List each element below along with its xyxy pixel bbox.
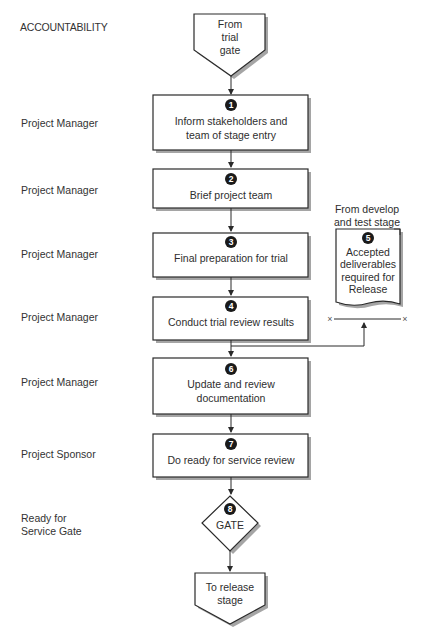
- input-doc-text-line: Release: [349, 283, 388, 295]
- input-doc-caption-line: From develop: [335, 203, 399, 215]
- step-7-box: 7 Do ready for service review: [153, 434, 311, 480]
- step-text-line: Update and review: [187, 378, 275, 390]
- start-offpage-connector: From trial gate: [194, 14, 268, 79]
- step-text-line: Conduct trial review results: [168, 316, 294, 328]
- start-text-line: trial: [222, 31, 239, 43]
- step-text-line: team of stage entry: [186, 129, 277, 141]
- input-doc-text-line: deliverables: [340, 258, 396, 270]
- step-6-box: 6 Update and review documentation: [153, 358, 311, 417]
- step-text-line: documentation: [197, 392, 266, 404]
- gate-decision: 8 GATE: [202, 496, 261, 554]
- step-text-line: Do ready for service review: [167, 454, 295, 466]
- step-number: 8: [228, 504, 233, 514]
- step-4-box: 4 Conduct trial review results: [153, 297, 311, 343]
- step-number: 7: [229, 439, 234, 449]
- svg-text:×: ×: [402, 314, 407, 324]
- input-doc-caption-line: and test stage: [334, 216, 400, 228]
- end-offpage-connector: To release stage: [195, 573, 268, 627]
- input-document-5: 5 Accepted deliverables required for Rel…: [336, 229, 403, 308]
- start-text-line: gate: [220, 44, 241, 56]
- step-2-box: 2 Brief project team: [153, 169, 311, 211]
- step-1-box: 1 Inform stakeholders and team of stage …: [153, 95, 311, 153]
- end-text-line: stage: [217, 594, 243, 606]
- step-text-line: Inform stakeholders and: [175, 115, 288, 127]
- start-text-line: From: [218, 18, 243, 30]
- gate-label: GATE: [216, 519, 244, 531]
- step-number: 4: [229, 301, 234, 311]
- step-number: 1: [229, 100, 234, 110]
- step-number: 5: [366, 233, 371, 243]
- step-3-box: 3 Final preparation for trial: [153, 233, 311, 280]
- step-text-line: Brief project team: [190, 189, 273, 201]
- step-text-line: Final preparation for trial: [174, 252, 288, 264]
- svg-text:×: ×: [327, 314, 332, 324]
- process-flowchart: From trial gate 1 Inform stakeholders an…: [0, 0, 423, 639]
- step-number: 3: [229, 237, 234, 247]
- input-doc-text-line: Accepted: [346, 246, 390, 258]
- end-text-line: To release: [206, 581, 255, 593]
- input-doc-text-line: required for: [341, 271, 395, 283]
- step-number: 6: [229, 364, 234, 374]
- step-number: 2: [229, 174, 234, 184]
